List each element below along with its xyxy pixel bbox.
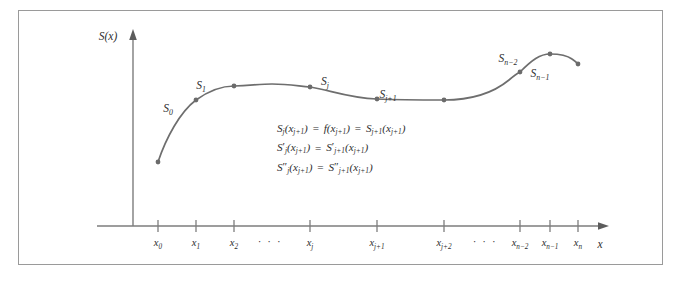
spline-knot-1 — [194, 98, 199, 103]
spline-knot-7 — [548, 52, 553, 57]
tick-label-8: xn — [573, 237, 583, 251]
tick-label-3: xj — [306, 237, 314, 251]
x-axis-tick-labels: x0x1x2xjxj+1xj+2xn−2xn−1xn — [153, 237, 583, 251]
spline-knot-0 — [156, 160, 161, 165]
segment-label-4: Sn−2 — [499, 52, 518, 67]
tick-label-1: x1 — [191, 237, 200, 251]
axis-ellipsis-1: · · · — [473, 235, 498, 247]
spline-knot-2 — [232, 84, 237, 89]
x-axis-label: x — [596, 238, 603, 250]
spline-knot-8 — [576, 62, 581, 67]
axis-ellipsis-0: · · · — [258, 235, 283, 247]
tick-label-2: x2 — [229, 237, 239, 251]
y-axis-label: S(x) — [99, 30, 118, 43]
spline-knot-3 — [308, 85, 313, 90]
spline-segment-labels: S0S1SjSj+1Sn−2Sn−1 — [163, 52, 549, 117]
segment-label-0: S0 — [163, 102, 173, 117]
continuity-equations: Sj(xj+1) = f(xj+1) = Sj+1(xj+1) S′j(xj+1… — [277, 121, 405, 178]
segment-label-5: Sn−1 — [531, 67, 550, 82]
equation-first-derivative-continuity: S′j(xj+1) = S′j+1(xj+1) — [277, 139, 405, 159]
spline-figure: S(x) x x0x1x2xjxj+1xj+2xn−2xn−1xn · · ··… — [0, 0, 682, 283]
tick-label-0: x0 — [153, 237, 163, 251]
equation-value-continuity: Sj(xj+1) = f(xj+1) = Sj+1(xj+1) — [277, 121, 405, 139]
tick-label-5: xj+2 — [435, 237, 452, 251]
x-axis-arrowhead — [598, 222, 609, 230]
tick-label-6: xn−2 — [511, 237, 529, 251]
segment-label-3: Sj+1 — [379, 88, 396, 103]
spline-knot-5 — [442, 98, 447, 103]
tick-label-7: xn−1 — [541, 237, 559, 251]
spline-knot-6 — [518, 70, 523, 75]
segment-label-1: S1 — [196, 79, 206, 94]
y-axis-arrowhead — [129, 29, 137, 40]
segment-label-2: Sj — [321, 75, 329, 90]
tick-label-4: xj+1 — [368, 237, 384, 251]
equation-second-derivative-continuity: S″j(xj+1) = S″j+1(xj+1) — [277, 159, 405, 179]
